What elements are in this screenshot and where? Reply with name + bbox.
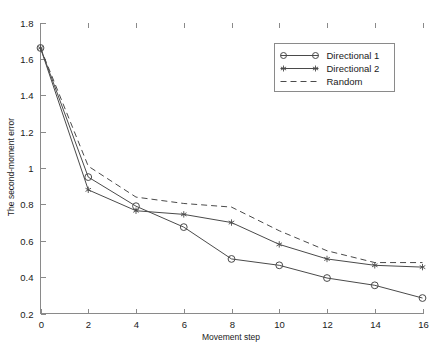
line-chart: 0.20.40.60.811.21.41.61.8 0246810121416 …	[0, 0, 443, 355]
x-tick-label: 0	[39, 319, 44, 330]
x-tick-label: 6	[182, 319, 187, 330]
y-tick-label: 0.4	[20, 272, 33, 283]
y-tick-label: 1.8	[20, 18, 33, 29]
x-tick-label: 2	[86, 319, 91, 330]
x-tick-label: 14	[370, 319, 381, 330]
x-tick-label: 4	[134, 319, 139, 330]
legend-label: Directional 1	[327, 50, 380, 61]
top-axis-ticks	[89, 23, 424, 28]
y-tick-label: 0.2	[20, 309, 33, 320]
y-tick-label: 1.6	[20, 54, 33, 65]
x-axis-ticks	[42, 309, 424, 314]
chart-legend[interactable]: Directional 1Directional 2Random	[275, 44, 395, 92]
y-tick-label: 1.4	[20, 90, 33, 101]
y-axis-tick-labels: 0.20.40.60.811.21.41.61.8	[20, 18, 33, 320]
data-point-star-marker	[276, 241, 282, 247]
y-tick-label: 1.2	[20, 127, 33, 138]
x-axis-title: Movement step	[202, 332, 260, 342]
x-tick-label: 12	[322, 319, 333, 330]
legend-label: Random	[327, 76, 363, 87]
data-point-circle-marker	[419, 295, 426, 302]
x-axis-tick-labels: 0246810121416	[39, 319, 429, 330]
data-point-star-marker	[85, 187, 91, 193]
y-tick-label: 0.8	[20, 199, 33, 210]
x-tick-label: 8	[230, 319, 235, 330]
y-tick-label: 1	[28, 163, 33, 174]
x-tick-label: 16	[418, 319, 429, 330]
legend-label: Directional 2	[327, 63, 380, 74]
x-tick-label: 10	[274, 319, 285, 330]
y-axis-title: The second-moment error	[6, 118, 16, 216]
chart-page: 0.20.40.60.811.21.41.61.8 0246810121416 …	[0, 0, 443, 355]
y-tick-label: 0.6	[20, 236, 33, 247]
y-axis-ticks	[41, 24, 46, 315]
